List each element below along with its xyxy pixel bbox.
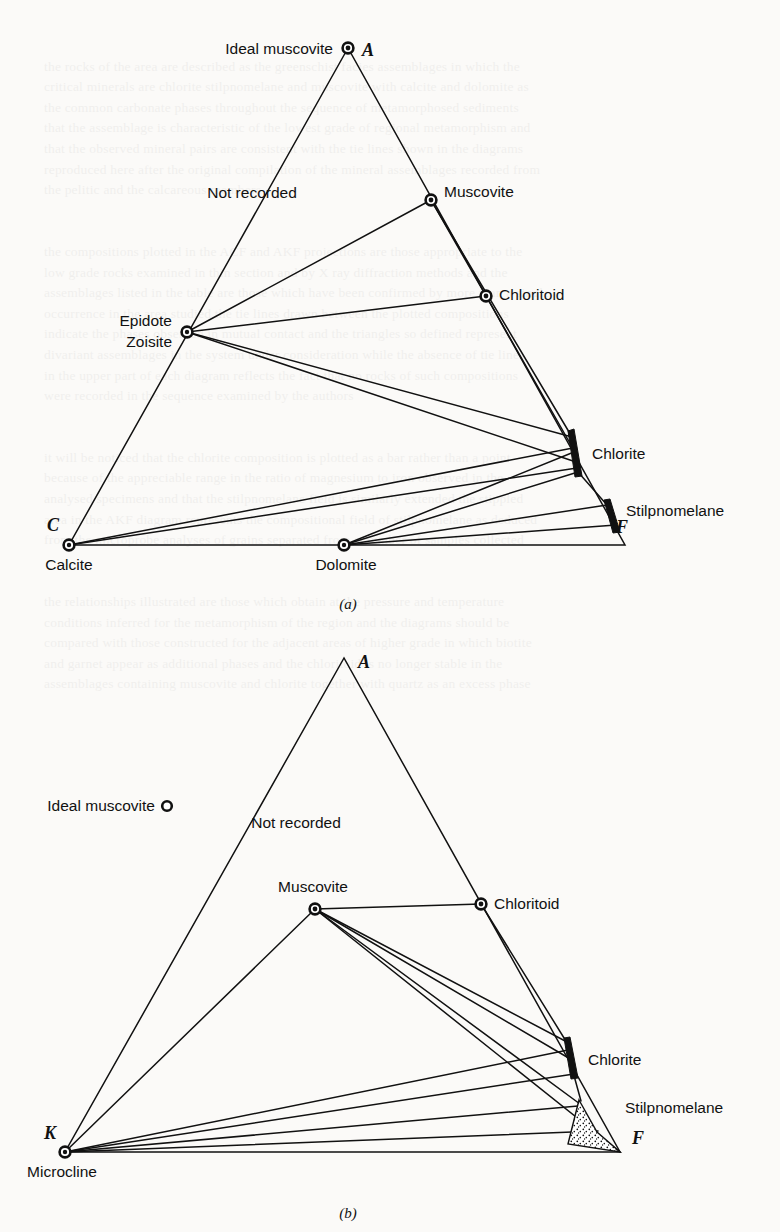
tie-epidote-muscovite: [187, 200, 431, 332]
tie-b-microcline-chlorite-upper: [65, 1050, 568, 1152]
panel-a-not-recorded-label: Not recorded: [207, 184, 297, 201]
node-calcite-a: [64, 540, 75, 551]
panel-b-chlorite-label: Chlorite: [588, 1051, 641, 1068]
tie-b-muscovite-chloritoid: [315, 904, 481, 909]
node-muscovite-b: [310, 904, 321, 915]
panel-b-caption: (b): [339, 1205, 357, 1222]
tie-b-chloritoid-chlorite: [481, 904, 569, 1046]
panel-a-zoisite-label: Zoisite: [126, 333, 172, 350]
panel-a-stilpnomelane-label: Stilpnomelane: [626, 502, 724, 519]
panel-a-chlorite-label: Chlorite: [592, 445, 645, 462]
node-microcline-b: [60, 1147, 71, 1158]
acf-akf-figure: A C F Ideal muscovite Not recorded Musco…: [0, 0, 780, 1232]
panel-a-ideal-muscovite-label: Ideal muscovite: [225, 40, 333, 57]
tie-b-microcline-muscovite: [65, 909, 315, 1152]
panel-a-chloritoid-label: Chloritoid: [499, 286, 564, 303]
panel-a-calcite-label: Calcite: [45, 556, 92, 573]
panel-b-ideal-muscovite-label: Ideal muscovite: [47, 797, 155, 814]
tie-b-microcline-stilpnomelane-lower: [65, 1131, 598, 1152]
panel-b-chloritoid-label: Chloritoid: [494, 895, 559, 912]
panel-a-nodes: [64, 43, 492, 551]
tie-muscovite-chlorite: [431, 200, 572, 437]
tie-chlorite-stilpnomelane: [578, 472, 607, 505]
panel-b-muscovite-label: Muscovite: [278, 878, 348, 895]
panel-b-apex-A-label: A: [357, 652, 370, 672]
node-epidote-zoisite-a: [182, 327, 193, 338]
tie-dolomite-stilpnomelane-upper: [344, 505, 607, 545]
node-ideal-muscovite-b: [162, 801, 172, 811]
panel-a-epidote-label: Epidote: [119, 312, 172, 329]
panel-b-apex-K-label: K: [43, 1123, 58, 1143]
stilpnomelane-stipple-region-panel-b: [568, 1100, 620, 1152]
node-chloritoid-b: [476, 899, 487, 910]
panel-a: A C F Ideal muscovite Not recorded Musco…: [45, 40, 724, 613]
tie-b-muscovite-chlorite-upper: [315, 909, 567, 1042]
node-chloritoid-a: [481, 291, 492, 302]
node-dolomite-a: [339, 540, 350, 551]
tie-epidote-chloritoid: [187, 296, 486, 332]
panel-b-tie-lines: [65, 904, 620, 1152]
tie-chloritoid-chlorite: [486, 296, 575, 452]
tie-b-muscovite-chlorite-lower: [315, 909, 572, 1060]
panel-a-apex-C-label: C: [47, 515, 60, 535]
panel-a-apex-F-label: F: [615, 517, 628, 537]
panel-a-caption: (a): [339, 596, 357, 613]
node-muscovite-a: [426, 195, 437, 206]
panel-b: A K F Ideal muscovite Not recorded Musco…: [27, 652, 723, 1222]
panel-a-muscovite-label: Muscovite: [444, 183, 514, 200]
panel-b-nodes: [60, 801, 487, 1157]
panel-b-not-recorded-label: Not recorded: [251, 814, 341, 831]
chlorite-bar-panel-b: [564, 1037, 578, 1079]
panel-b-microcline-label: Microcline: [27, 1163, 97, 1180]
panel-b-stilpnomelane-label: Stilpnomelane: [625, 1099, 723, 1116]
panel-b-apex-F-label: F: [631, 1128, 644, 1148]
panel-a-dolomite-label: Dolomite: [315, 556, 376, 573]
panel-a-tie-lines: [69, 200, 616, 545]
node-ideal-muscovite-a: [343, 43, 354, 54]
tie-dolomite-chlorite-lower: [344, 472, 578, 545]
panel-a-apex-A-label: A: [361, 40, 374, 60]
